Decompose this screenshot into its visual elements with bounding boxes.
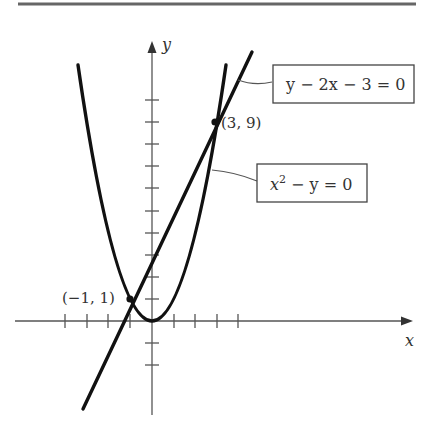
- parabola-eq-sup: 2: [279, 173, 286, 186]
- intersection-point-3-9: [211, 118, 218, 125]
- point-label-neg1-1: (−1, 1): [62, 289, 115, 307]
- parabola-equation-box: x2 − y = 0: [257, 164, 367, 202]
- point-label-3-9: (3, 9): [221, 114, 261, 132]
- y-axis: [145, 41, 159, 415]
- parabola-label-leader: [212, 170, 257, 181]
- y-axis-label: y: [161, 35, 172, 54]
- line-equation-label: y − 2x − 3 = 0: [285, 75, 405, 94]
- parabola-eq-base: x: [270, 175, 279, 194]
- x-axis-label: x: [405, 331, 414, 350]
- intersection-point-neg1-1: [126, 295, 133, 302]
- line-label-leader: [238, 80, 272, 84]
- y-axis-arrow-icon: [148, 41, 157, 53]
- x-axis-arrow-icon: [401, 317, 413, 326]
- line-equation-box: y − 2x − 3 = 0: [273, 65, 414, 103]
- x-axis: [15, 314, 413, 328]
- figure: y x (3, 9) (−1, 1) y − 2x − 3 = 0 x2 − y…: [0, 0, 434, 435]
- parabola-eq-rest: − y = 0: [286, 175, 352, 194]
- graph-svg: y x (3, 9) (−1, 1) y − 2x − 3 = 0 x2 − y…: [0, 0, 434, 435]
